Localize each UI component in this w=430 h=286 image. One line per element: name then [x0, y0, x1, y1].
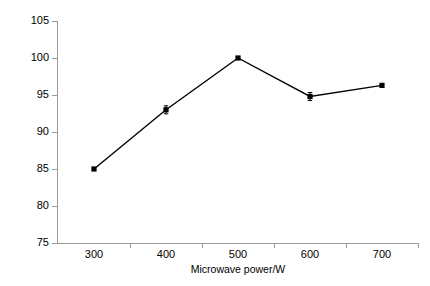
data-point-marker — [91, 166, 96, 171]
x-axis-minor-tick — [274, 243, 275, 248]
x-axis-tick-label: 400 — [141, 249, 191, 260]
data-point-marker — [307, 94, 312, 99]
y-axis-tick — [52, 243, 57, 244]
error-bar — [308, 92, 312, 100]
x-axis-tick-label: 600 — [285, 249, 335, 260]
y-axis-tick-label: 85 — [3, 163, 49, 174]
data-point-marker — [235, 55, 240, 60]
y-axis-tick — [52, 21, 57, 22]
x-axis-minor-tick — [346, 243, 347, 248]
x-axis-line — [57, 243, 418, 244]
error-bar — [164, 106, 168, 114]
x-axis-minor-tick — [130, 243, 131, 248]
y-axis-tick-label: 105 — [3, 15, 49, 26]
x-axis-title-text: Microwave power/W — [191, 263, 286, 275]
y-axis-tick-label: 100 — [3, 52, 49, 63]
y-axis-tick-label: 80 — [3, 200, 49, 211]
data-point-marker — [163, 107, 168, 112]
y-axis-tick — [52, 132, 57, 133]
data-point-marker — [379, 83, 384, 88]
y-axis-tick-label: 95 — [3, 89, 49, 100]
y-axis-tick — [52, 95, 57, 96]
y-axis-line — [57, 21, 58, 244]
x-axis-title: Microwave power/W — [58, 263, 418, 275]
y-axis-tick — [52, 169, 57, 170]
x-axis-minor-tick — [418, 243, 419, 248]
y-axis-tick-label: 90 — [3, 126, 49, 137]
y-axis-tick — [52, 58, 57, 59]
x-axis-tick-label: 500 — [213, 249, 263, 260]
y-axis-tick — [52, 206, 57, 207]
x-axis-tick-label: 300 — [69, 249, 119, 260]
x-axis-tick-label: 700 — [357, 249, 407, 260]
chart-container: Sterilization rate/% 7580859095100105 30… — [0, 0, 430, 286]
y-axis-tick-label: 75 — [3, 237, 49, 248]
x-axis-minor-tick — [202, 243, 203, 248]
series-line — [94, 58, 382, 169]
